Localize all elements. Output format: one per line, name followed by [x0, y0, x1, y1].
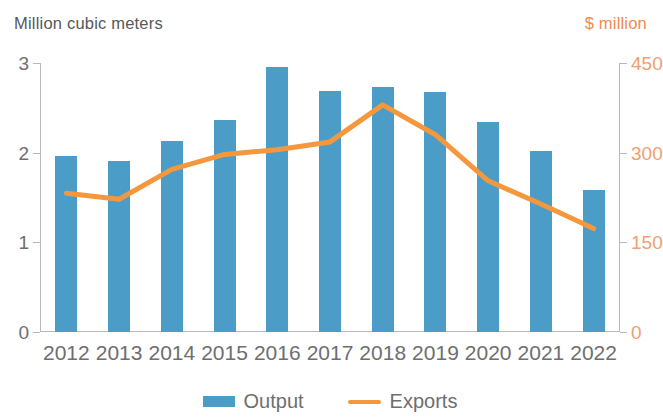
x-tick-label-2020: 2020	[465, 341, 512, 365]
x-axis-tick-labels: 2012201320142015201620172018201920202021…	[40, 341, 620, 371]
x-tick-label-2014: 2014	[148, 341, 195, 365]
right-tick-mark	[620, 63, 627, 64]
line-series-exports	[40, 63, 620, 332]
right-axis-caption: $ million	[585, 14, 647, 33]
legend-item-output: Output	[203, 390, 304, 413]
right-tick-mark	[620, 332, 627, 333]
left-tick-mark	[33, 242, 40, 243]
bar-swatch-icon	[203, 396, 235, 407]
left-tick-mark	[33, 63, 40, 64]
right-tick-label: 0	[631, 323, 642, 342]
plot-area: 0123 0150300450	[40, 63, 620, 332]
x-tick-label-2012: 2012	[43, 341, 90, 365]
x-tick-label-2013: 2013	[96, 341, 143, 365]
x-tick-label-2016: 2016	[254, 341, 301, 365]
legend-label-output: Output	[244, 390, 304, 413]
left-tick-label: 3	[18, 54, 29, 73]
left-tick-label: 0	[18, 323, 29, 342]
left-tick-mark	[33, 153, 40, 154]
left-tick-label: 1	[18, 233, 29, 252]
right-tick-label: 300	[631, 144, 663, 163]
right-tick-mark	[620, 153, 627, 154]
x-tick-label-2017: 2017	[307, 341, 354, 365]
right-tick-label: 450	[631, 54, 663, 73]
legend-label-exports: Exports	[390, 390, 458, 413]
x-tick-label-2018: 2018	[359, 341, 406, 365]
right-tick-mark	[620, 242, 627, 243]
x-tick-label-2022: 2022	[570, 341, 617, 365]
legend-item-exports: Exports	[348, 390, 458, 413]
left-tick-mark	[33, 332, 40, 333]
x-tick-label-2015: 2015	[201, 341, 248, 365]
chart-legend: Output Exports	[0, 390, 660, 413]
left-axis-caption: Million cubic meters	[14, 14, 163, 33]
exports-polyline	[66, 105, 593, 229]
line-swatch-icon	[348, 400, 381, 404]
x-tick-label-2021: 2021	[518, 341, 565, 365]
right-tick-label: 150	[631, 233, 663, 252]
x-tick-label-2019: 2019	[412, 341, 459, 365]
left-tick-label: 2	[18, 144, 29, 163]
